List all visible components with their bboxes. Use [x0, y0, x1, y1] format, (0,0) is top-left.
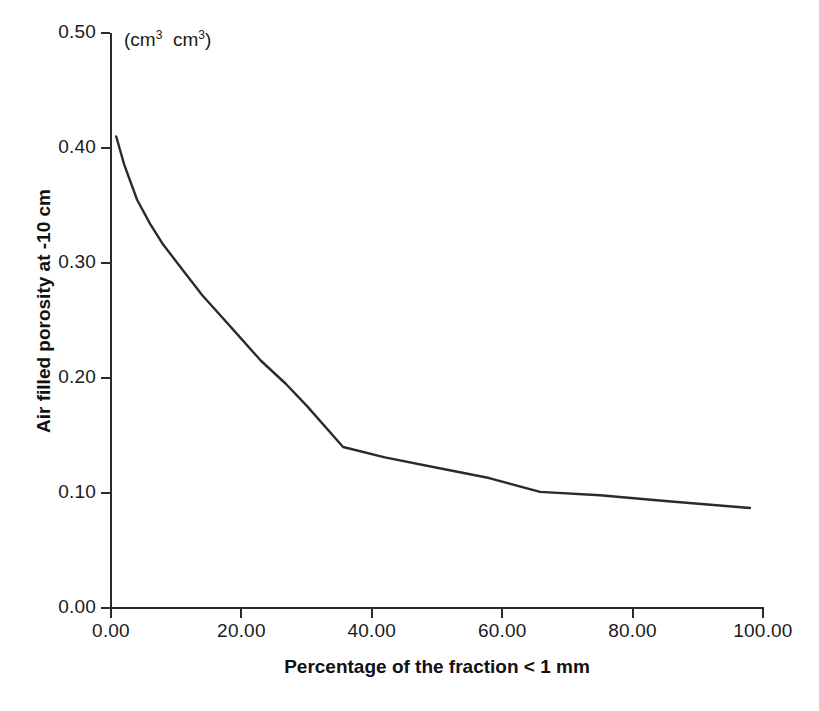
x-tick-label: 80.00 — [573, 620, 693, 642]
y-tick-label: 0.00 — [0, 596, 96, 618]
y-axis-title: Air filled porosity at -10 cm — [33, 81, 55, 541]
y-tick-label: 0.50 — [0, 21, 96, 43]
y-tick-mark — [101, 377, 110, 379]
x-tick-mark — [501, 609, 503, 618]
y-tick-label-text: 0.00 — [58, 596, 96, 617]
x-tick-label-text: 100.00 — [733, 620, 792, 641]
x-tick-mark — [110, 609, 112, 618]
caption-fragment — [86, 694, 706, 708]
y-tick-label-text: 0.30 — [58, 251, 96, 272]
x-tick-label: 100.00 — [703, 620, 819, 642]
plot-area — [111, 33, 763, 608]
x-tick-label: 40.00 — [312, 620, 432, 642]
chart-figure: (cm3 cm3) 0.000.100.200.300.400.50 0.002… — [0, 0, 819, 711]
x-tick-label-text: 40.00 — [348, 620, 397, 641]
y-tick-mark — [101, 262, 110, 264]
y-tick-label-text: 0.20 — [58, 366, 96, 387]
y-tick-label-text: 0.40 — [58, 136, 96, 157]
y-tick-mark — [101, 607, 110, 609]
x-tick-mark — [371, 609, 373, 618]
x-tick-label: 20.00 — [181, 620, 301, 642]
x-tick-label-text: 80.00 — [608, 620, 657, 641]
x-tick-mark — [240, 609, 242, 618]
y-tick-mark — [101, 147, 110, 149]
x-axis-title: Percentage of the fraction < 1 mm — [111, 656, 763, 678]
y-tick-mark — [101, 492, 110, 494]
y-tick-mark — [101, 32, 110, 34]
x-tick-label-text: 20.00 — [217, 620, 266, 641]
x-tick-mark — [632, 609, 634, 618]
y-tick-label-text: 0.50 — [58, 21, 96, 42]
x-tick-label-text: 60.00 — [478, 620, 527, 641]
data-series-line — [111, 33, 763, 608]
x-tick-mark — [762, 609, 764, 618]
x-tick-label: 60.00 — [442, 620, 562, 642]
x-tick-label-text: 0.00 — [92, 620, 130, 641]
y-tick-label-text: 0.10 — [58, 481, 96, 502]
x-tick-label: 0.00 — [51, 620, 171, 642]
